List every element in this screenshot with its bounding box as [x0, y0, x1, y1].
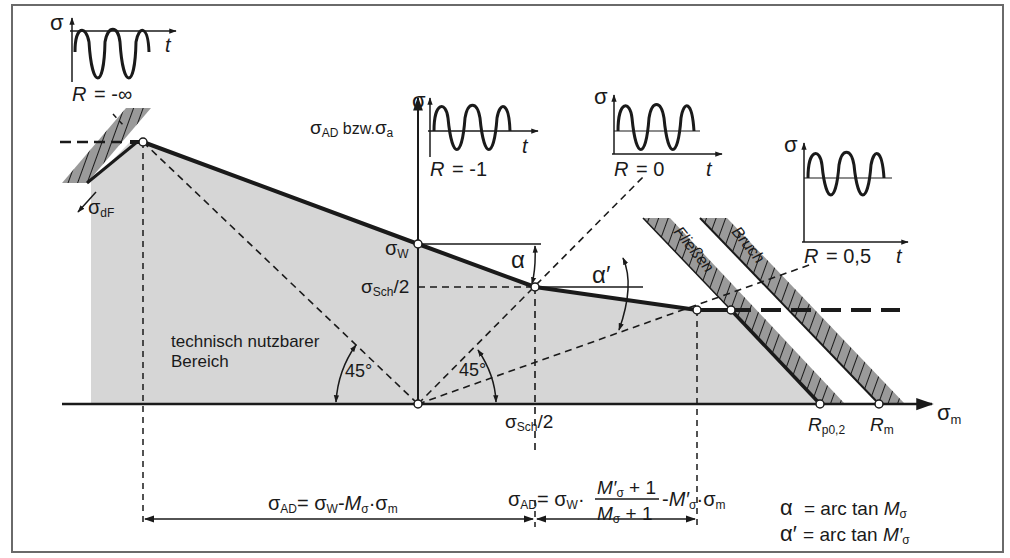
usable-region-label-2: Bereich: [171, 352, 229, 371]
usable-region-label-1: technisch nutzbarer: [171, 332, 320, 351]
r-half-label: R = 0,5: [804, 245, 871, 267]
angle-45-left-label: 45°: [345, 361, 372, 381]
r-zero-label: R = 0: [614, 158, 664, 180]
angle-45-right-label: 45°: [459, 360, 486, 380]
fatigue-strength-diagram: σ t R = -∞ σ t R = -1 σ t R = 0 σ t R = …: [0, 0, 1010, 558]
alpha-label: α: [511, 246, 525, 273]
alpha-prime-definition: α′ = arc tan M′σ: [780, 521, 910, 547]
point-peak-left: [139, 138, 147, 146]
point-knee: [693, 306, 701, 314]
point-rp02: [816, 400, 824, 408]
point-sigma-sch-half: [531, 283, 539, 291]
alpha-prime-label: α′: [592, 261, 611, 288]
svg-text:σ: σ: [594, 84, 608, 109]
alpha-definition: α = arc tan Mσ: [780, 495, 908, 521]
r-minus-inf-label: R = -∞: [72, 83, 132, 105]
svg-text:σ: σ: [412, 88, 426, 113]
point-rm: [875, 400, 883, 408]
point-yield-intersect: [727, 306, 735, 314]
svg-text:σ: σ: [50, 10, 64, 35]
point-origin: [414, 400, 422, 408]
r-minus-one-label: R = -1: [430, 158, 487, 180]
svg-text:M′σ + 1: M′σ + 1: [597, 477, 656, 500]
point-sigma-w: [414, 240, 422, 248]
svg-text:Mσ + 1: Mσ + 1: [597, 503, 652, 526]
svg-text:σ: σ: [784, 132, 798, 157]
